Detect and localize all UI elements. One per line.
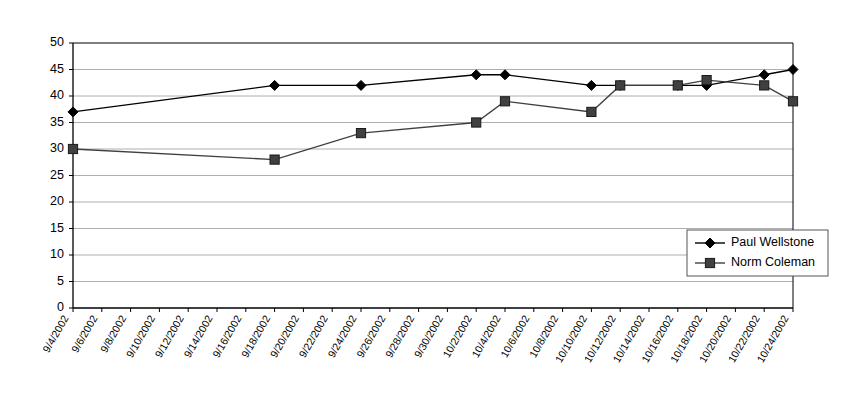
y-tick-label: 0: [57, 300, 64, 314]
y-tick-label: 30: [50, 141, 64, 155]
x-tick-label: 9/4/2002: [40, 313, 71, 355]
y-tick-label: 5: [57, 274, 64, 288]
legend: Paul WellstoneNorm Coleman: [687, 230, 828, 276]
y-tick-label: 45: [50, 62, 64, 76]
data-point-marker: [702, 76, 711, 85]
legend-marker: [705, 258, 714, 267]
legend-label: Norm Coleman: [731, 255, 815, 269]
legend-label: Paul Wellstone: [731, 235, 814, 249]
data-point-marker: [68, 144, 77, 153]
data-point-marker: [356, 129, 365, 138]
y-tick-label: 20: [50, 194, 64, 208]
y-axis-labels: 05101520253035404550: [50, 35, 73, 314]
data-point-marker: [500, 97, 509, 106]
data-point-marker: [788, 97, 797, 106]
y-tick-label: 25: [50, 168, 64, 182]
y-tick-label: 10: [50, 247, 64, 261]
x-tick-label: 9/8/2002: [98, 313, 129, 355]
chart-container: 051015202530354045509/4/20029/6/20029/8/…: [0, 0, 868, 413]
data-point-marker: [760, 81, 769, 90]
y-tick-label: 35: [50, 115, 64, 129]
y-tick-label: 40: [50, 88, 64, 102]
data-point-marker: [673, 81, 682, 90]
y-tick-label: 50: [50, 35, 64, 49]
line-chart: 051015202530354045509/4/20029/6/20029/8/…: [0, 0, 868, 413]
data-point-marker: [472, 118, 481, 127]
data-point-marker: [270, 155, 279, 164]
data-point-marker: [616, 81, 625, 90]
y-tick-label: 15: [50, 221, 64, 235]
x-tick-label: 9/6/2002: [69, 313, 100, 355]
x-axis-labels: 9/4/20029/6/20029/8/20029/10/20029/12/20…: [40, 308, 793, 365]
data-point-marker: [587, 107, 596, 116]
